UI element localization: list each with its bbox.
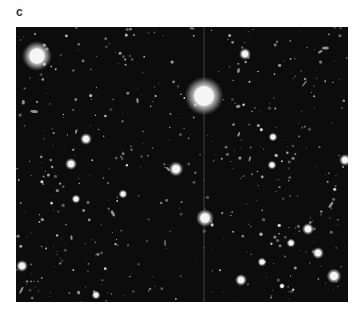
star-field-canvas bbox=[16, 27, 348, 302]
star-field-image bbox=[16, 27, 348, 302]
panel-label: c bbox=[16, 5, 23, 19]
